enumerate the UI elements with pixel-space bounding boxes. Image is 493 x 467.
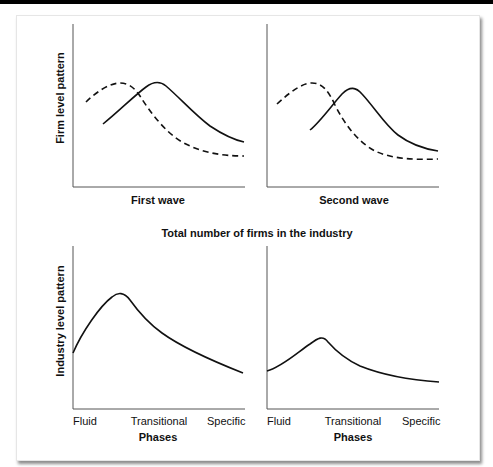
axes-bottom-left <box>73 246 245 409</box>
xlabel-phases-right: Phases <box>334 431 373 443</box>
curve-top-right-solid <box>310 88 438 151</box>
tick-transitional-left: Transitional <box>131 415 187 427</box>
axes <box>73 24 439 409</box>
axes-top-right <box>267 24 439 187</box>
xlabel-first-wave: First wave <box>131 194 185 206</box>
tick-specific-left: Specific <box>207 415 246 427</box>
axes-bottom-right <box>267 246 439 409</box>
curve-bottom-right <box>267 338 439 382</box>
curve-bottom-left <box>73 294 243 373</box>
tick-transitional-right: Transitional <box>325 415 381 427</box>
middle-title: Total number of firms in the industry <box>161 227 352 239</box>
curve-top-right-dashed <box>277 83 438 159</box>
curve-top-left-solid <box>103 82 244 142</box>
tick-fluid-right: Fluid <box>267 415 291 427</box>
tick-specific-right: Specific <box>402 415 441 427</box>
axes-top-left <box>73 24 245 187</box>
curve-top-left-dashed <box>86 83 244 156</box>
ylabel-industry-level: Industry level pattern <box>54 254 66 388</box>
xlabel-phases-left: Phases <box>139 431 178 443</box>
tick-fluid-left: Fluid <box>73 415 97 427</box>
ylabel-firm-level: Firm level pattern <box>54 38 66 158</box>
xlabel-second-wave: Second wave <box>319 194 389 206</box>
